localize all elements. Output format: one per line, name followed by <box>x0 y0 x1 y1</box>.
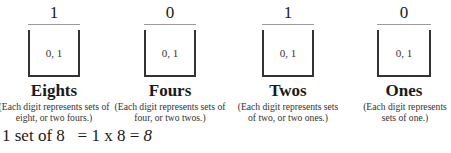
equation: 1 set of 8 = 1 x 8 = 8 <box>2 126 152 146</box>
box-values: 0, 1 <box>264 47 312 59</box>
box-values: 0, 1 <box>379 47 429 59</box>
digit-box: 0, 1 <box>28 30 80 77</box>
digit-box: 0, 1 <box>144 30 196 77</box>
digit-value: 0 <box>349 3 451 23</box>
place-description: (Each digit represents sets of two, or t… <box>237 101 339 123</box>
digit-rule <box>377 24 431 25</box>
place-label: Fours <box>115 81 225 101</box>
digit-rule <box>262 24 314 25</box>
place-description: (Each digit represents sets of four, or … <box>111 101 229 123</box>
digit-box: 0, 1 <box>377 30 431 77</box>
digit-value: 1 <box>0 3 109 23</box>
box-values: 0, 1 <box>146 47 194 59</box>
digit-value: 0 <box>115 3 225 23</box>
place-description: (Each digit represents sets of one.) <box>359 101 451 123</box>
digit-box: 0, 1 <box>262 30 314 77</box>
digit-rule <box>144 24 196 25</box>
box-values: 0, 1 <box>30 47 78 59</box>
digit-rule <box>28 24 80 25</box>
equation-result: 8 <box>143 126 152 145</box>
digit-value: 1 <box>233 3 343 23</box>
equation-text: 1 set of 8 = 1 x 8 = <box>2 126 143 145</box>
place-label: Twos <box>233 81 343 101</box>
place-description: (Each digit represents sets of eight, or… <box>0 101 113 123</box>
place-label: Ones <box>349 81 451 101</box>
place-label: Eights <box>0 81 109 101</box>
